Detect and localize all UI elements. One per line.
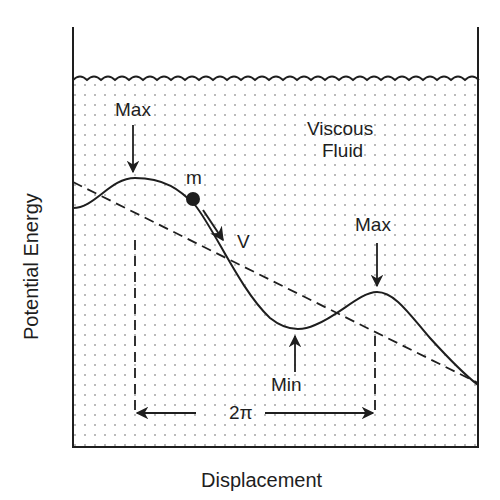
min-label: Min	[271, 375, 302, 394]
max-right-label: Max	[355, 215, 391, 234]
velocity-label: V	[237, 232, 250, 251]
fluid-label-line1: Viscous	[307, 119, 373, 138]
fluid-surface	[73, 77, 479, 81]
y-axis-label: Potential Energy	[20, 193, 43, 340]
mass-label: m	[186, 168, 202, 187]
fluid-label-line2: Fluid	[322, 141, 363, 160]
diagram-canvas	[0, 0, 500, 500]
x-axis-label: Displacement	[201, 470, 322, 490]
mass-ball	[186, 192, 200, 206]
period-label: 2π	[229, 403, 253, 422]
max-left-label: Max	[115, 100, 151, 119]
